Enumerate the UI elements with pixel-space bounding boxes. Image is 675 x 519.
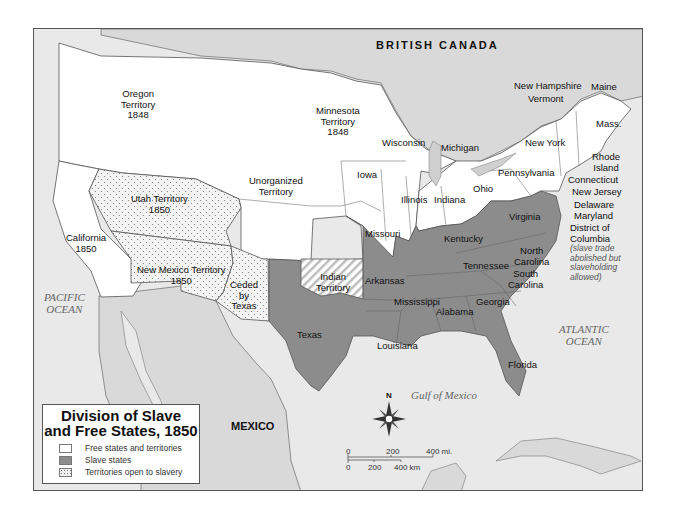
label-utah: Utah Territory1850 — [131, 194, 188, 215]
label-mexico: MEXICO — [231, 421, 274, 432]
label-mass: Mass. — [596, 119, 621, 130]
label-illinois: Illinois — [401, 195, 427, 206]
label-ceded: CededbyTexas — [230, 280, 258, 312]
label-unorganized: UnorganizedTerritory — [249, 176, 303, 197]
label-texas: Texas — [297, 330, 322, 341]
legend-swatch-slave — [59, 456, 72, 465]
label-georgia: Georgia — [476, 297, 510, 308]
label-pennsylvania: Pennsylvania — [498, 168, 555, 179]
label-maryland: Maryland — [574, 211, 613, 222]
label-virginia: Virginia — [509, 212, 541, 223]
label-south-carolina: SouthCarolina — [508, 269, 543, 290]
label-delaware: Delaware — [574, 200, 614, 211]
label-new-hampshire: New Hampshire — [514, 81, 582, 92]
label-ohio: Ohio — [473, 184, 493, 195]
label-dc-note: (slave tradeabolished butslaveholdingall… — [570, 244, 621, 282]
legend-title: Division of Slaveand Free States, 1850 — [43, 408, 199, 438]
scale-mi-400: 400 mi. — [426, 447, 452, 456]
scale-km-0: 0 — [346, 463, 350, 472]
label-atlantic: ATLANTICOCEAN — [559, 323, 609, 347]
label-louisiana: Louisiana — [377, 341, 418, 352]
label-iowa: Iowa — [357, 170, 377, 181]
label-new-jersey: New Jersey — [572, 187, 622, 198]
scale-mi-0: 0 — [346, 447, 350, 456]
legend-swatch-free — [59, 444, 72, 453]
label-british-canada: BRITISH CANADA — [376, 40, 499, 51]
label-new-york: New York — [525, 138, 565, 149]
label-missouri: Missouri — [365, 229, 400, 240]
label-indiana: Indiana — [434, 195, 465, 206]
label-new-mexico: New Mexico Territory1850 — [137, 265, 226, 286]
label-rhode-island: RhodeIsland — [592, 152, 620, 173]
label-indian-territory: IndianTerritory — [316, 272, 350, 293]
label-california: California1850 — [66, 233, 106, 254]
scale-km-200: 200 — [368, 463, 381, 472]
legend: Division of Slaveand Free States, 1850 F… — [42, 404, 200, 484]
legend-swatch-open — [59, 468, 72, 477]
scale-mi-200: 200 — [386, 447, 399, 456]
label-gulf: Gulf of Mexico — [411, 389, 477, 401]
label-florida: Florida — [508, 360, 537, 371]
label-tennessee: Tennessee — [463, 261, 509, 272]
label-alabama: Alabama — [436, 307, 474, 318]
label-minnesota: MinnesotaTerritory1848 — [316, 106, 360, 138]
label-north-carolina: NorthCarolina — [514, 246, 549, 267]
label-wisconsin: Wisconsin — [382, 138, 425, 149]
label-oregon: OregonTerritory1848 — [121, 89, 155, 121]
scale-km-400: 400 km — [394, 463, 420, 472]
label-connecticut: Connecticut — [568, 175, 618, 186]
label-michigan: Michigan — [441, 143, 479, 154]
label-dc: District ofColumbia — [570, 223, 610, 244]
label-vermont: Vermont — [528, 94, 563, 105]
label-mississippi: Mississippi — [394, 297, 440, 308]
label-pacific: PACIFICOCEAN — [44, 291, 85, 315]
label-maine: Maine — [591, 82, 617, 93]
label-arkansas: Arkansas — [365, 276, 405, 287]
label-kentucky: Kentucky — [444, 234, 483, 245]
compass-north-label: N — [386, 391, 392, 402]
